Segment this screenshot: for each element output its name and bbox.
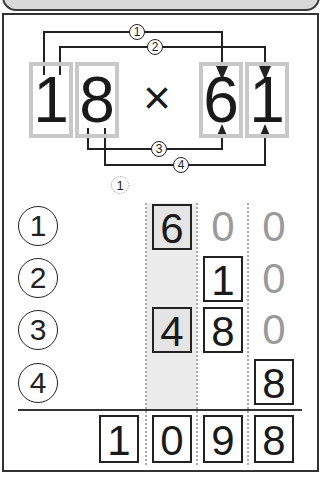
sum-line bbox=[18, 409, 302, 411]
sum-digit-hundreds: 0 bbox=[152, 415, 192, 463]
partial-product-digit: 8 bbox=[254, 359, 294, 405]
placeholder-zero: 0 bbox=[254, 307, 294, 353]
carry-mark: 1 bbox=[111, 176, 129, 194]
arrow-label-2: 2 bbox=[147, 39, 163, 55]
sum-digit-thousands: 1 bbox=[99, 415, 139, 463]
sum-digit-tens: 9 bbox=[203, 415, 243, 463]
row-label-2: 2 bbox=[18, 258, 58, 298]
column-divider bbox=[145, 203, 147, 465]
row-label-1: 1 bbox=[18, 206, 58, 246]
column-divider bbox=[196, 203, 198, 465]
placeholder-zero: 0 bbox=[254, 204, 294, 250]
sum-digit-ones: 8 bbox=[254, 415, 294, 463]
times-sign: × bbox=[143, 70, 171, 125]
right-digit-tens: 6 bbox=[199, 62, 243, 138]
left-digit-ones: 8 bbox=[75, 62, 119, 138]
placeholder-zero: 0 bbox=[254, 256, 294, 302]
arrow-label-1: 1 bbox=[129, 24, 145, 40]
row-label-4: 4 bbox=[18, 363, 58, 403]
arrow-label-3: 3 bbox=[151, 141, 167, 157]
column-divider bbox=[247, 203, 249, 465]
arrow-label-4: 4 bbox=[173, 157, 189, 173]
placeholder-zero: 0 bbox=[203, 204, 243, 250]
partial-product-digit: 6 bbox=[152, 204, 192, 250]
partial-product-digit: 4 bbox=[152, 307, 192, 353]
right-digit-ones: 1 bbox=[245, 62, 289, 138]
partial-product-digit: 8 bbox=[203, 307, 243, 353]
row-label-3: 3 bbox=[18, 310, 58, 350]
partial-product-digit: 1 bbox=[203, 256, 243, 302]
left-digit-tens: 1 bbox=[29, 62, 73, 138]
